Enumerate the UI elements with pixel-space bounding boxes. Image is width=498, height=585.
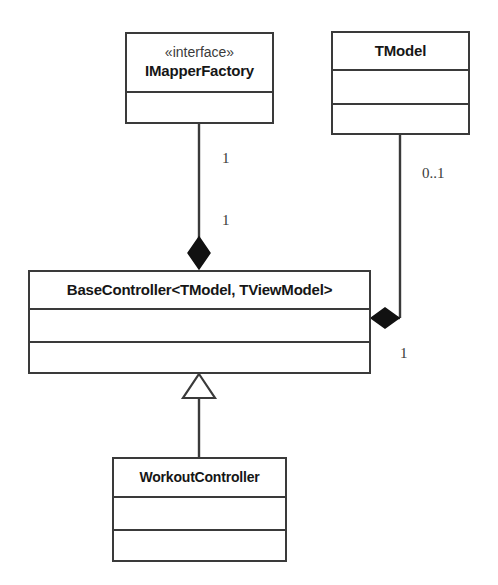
- class-box-tmodel[interactable]: TModel: [331, 31, 470, 135]
- multiplicity-label-imapperfactory-upper: 1: [222, 150, 230, 167]
- relationship-workoutcontroller-basecontroller: [183, 374, 215, 457]
- composition-diamond-imapperfactory: [188, 237, 210, 269]
- class-name-imapperfactory: IMapperFactory: [145, 62, 254, 81]
- multiplicity-label-imapperfactory-lower: 1: [222, 212, 230, 229]
- class-name-basecontroller: BaseController<TModel, TViewModel>: [67, 281, 332, 300]
- class-attributes-workoutcontroller: [114, 496, 285, 529]
- class-attributes-tmodel: [333, 69, 468, 103]
- multiplicity-label-tmodel-lower: 1: [400, 345, 408, 362]
- class-header-imapperfactory: «interface» IMapperFactory: [127, 34, 272, 91]
- class-name-tmodel: TModel: [375, 42, 426, 61]
- class-stereotype-imapperfactory: «interface»: [165, 44, 234, 62]
- class-operations-tmodel: [333, 103, 468, 133]
- class-header-workoutcontroller: WorkoutController: [114, 459, 285, 496]
- class-box-imapperfactory[interactable]: «interface» IMapperFactory: [125, 32, 274, 124]
- generalization-hollow-triangle-icon: [183, 374, 215, 398]
- class-attributes-basecontroller: [30, 308, 369, 341]
- relationship-tmodel-basecontroller: [371, 135, 400, 328]
- multiplicity-label-tmodel-upper: 0..1: [422, 165, 445, 182]
- class-box-basecontroller[interactable]: BaseController<TModel, TViewModel>: [28, 270, 371, 374]
- composition-diamond-tmodel: [371, 308, 399, 328]
- class-attributes-imapperfactory: [127, 91, 272, 122]
- relationship-imapperfactory-basecontroller: [188, 124, 210, 269]
- class-operations-workoutcontroller: [114, 529, 285, 560]
- class-header-basecontroller: BaseController<TModel, TViewModel>: [30, 272, 369, 308]
- class-operations-basecontroller: [30, 341, 369, 372]
- class-name-workoutcontroller: WorkoutController: [139, 469, 259, 487]
- uml-class-diagram-canvas: «interface» IMapperFactory TModel BaseCo…: [0, 0, 498, 585]
- class-header-tmodel: TModel: [333, 33, 468, 69]
- class-box-workoutcontroller[interactable]: WorkoutController: [112, 457, 287, 562]
